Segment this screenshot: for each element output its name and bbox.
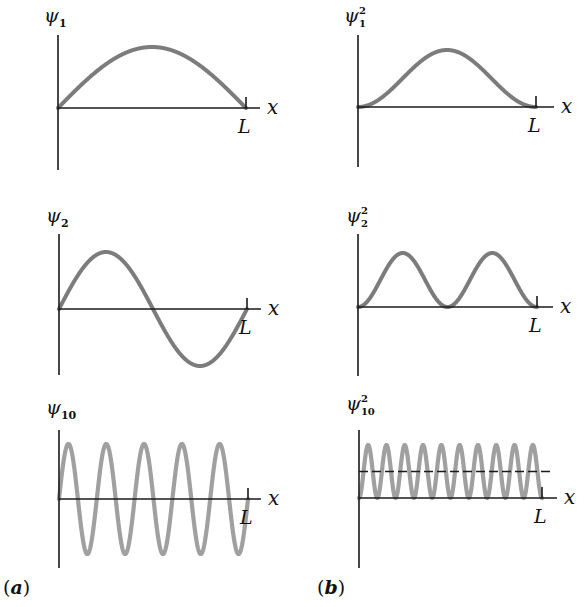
x-axis-label: x [268,296,279,320]
curve-psi1 [58,47,246,108]
l-label: L [527,114,541,136]
panel-psi2: ψ2 xL [46,204,279,375]
l-label: L [239,506,253,528]
panel-title: ψ210 [346,392,375,417]
column-label-b: (b) [317,576,345,598]
x-axis-label: x [267,95,278,119]
x-axis-label: x [564,485,575,509]
panel-title: ψ21 [344,4,366,29]
panel-psi10-squared: ψ210 xL [346,392,575,568]
x-axis-label: x [560,294,571,318]
l-label: L [238,316,252,338]
panel-psi2-squared: ψ22 xL [346,204,571,376]
l-label: L [528,314,542,336]
x-axis-label: x [561,94,572,118]
panel-psi1: ψ1 xL [44,4,278,170]
l-label: L [533,505,547,527]
curve-psi2sq [358,253,537,307]
x-axis-label: x [268,486,279,510]
panel-psi10: ψ10 xL [46,396,279,568]
panel-title: ψ1 [44,4,67,30]
panel-psi1-squared: ψ21 xL [344,4,572,167]
l-label: L [237,115,251,137]
panel-title: ψ2 [46,204,69,230]
panel-title: ψ22 [346,204,368,229]
curve-psi1sq [358,50,536,107]
wavefunction-figure: ψ1 xL ψ21 xL ψ2 xL ψ22 xL ψ10 xL ψ210 xL… [0,0,588,607]
column-label-a: (a) [3,576,30,598]
panel-title: ψ10 [46,396,77,422]
